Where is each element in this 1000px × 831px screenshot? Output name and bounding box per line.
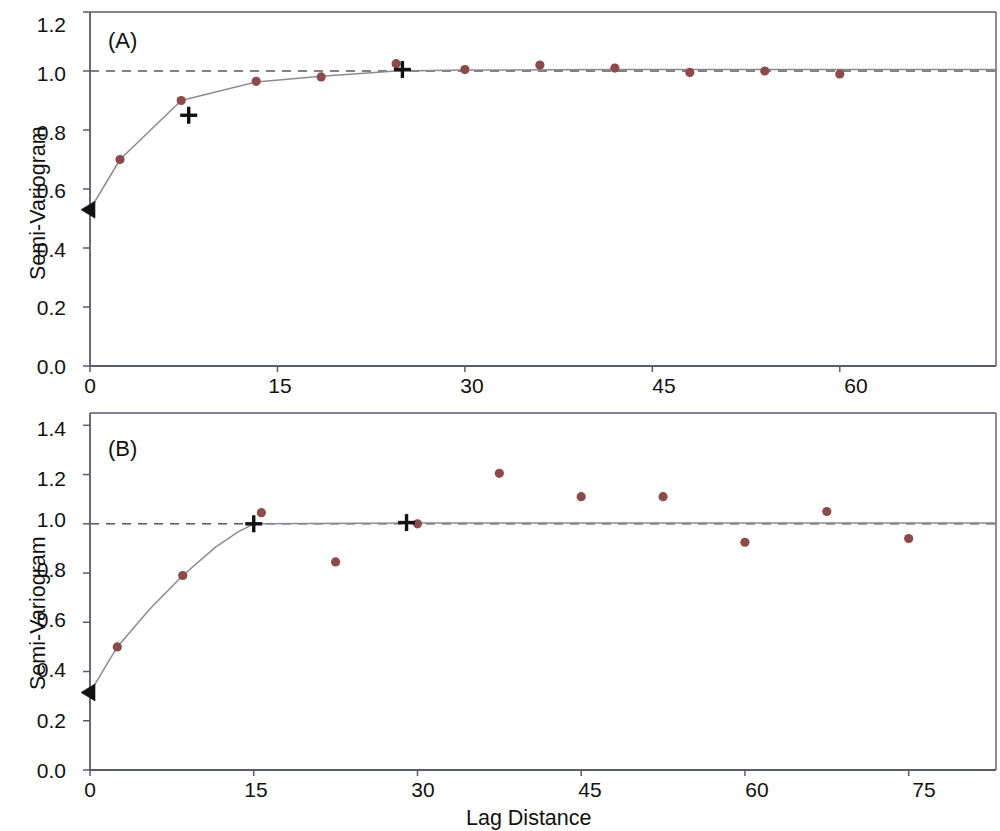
- panel-a-y-axis-title: Semi-Variogram: [26, 126, 51, 280]
- nugget-triangle-marker: [81, 201, 95, 218]
- data-point: [115, 155, 124, 164]
- data-point: [610, 63, 619, 72]
- shared-x-axis-title: Lag Distance: [466, 806, 592, 831]
- data-point: [257, 508, 266, 517]
- fitted-model-curve: [90, 523, 996, 692]
- panel-b-xtick-45: 45: [560, 779, 620, 800]
- panel-a-xtick-30: 30: [442, 375, 502, 396]
- panel-b-plot: [0, 400, 1000, 831]
- panel-a-plot: [0, 0, 1000, 400]
- panel-b-xtick-30: 30: [393, 779, 453, 800]
- panel-b-ytick-0.0: 0.0: [8, 760, 66, 781]
- panel-a-xtick-45: 45: [634, 375, 694, 396]
- data-point: [495, 469, 504, 478]
- panel-b-xtick-75: 75: [894, 779, 954, 800]
- cross-marker: [398, 514, 415, 531]
- panel-a-xtick-15: 15: [250, 375, 310, 396]
- panel-a-xtick-60: 60: [826, 375, 886, 396]
- panel-b-ytick-1.2: 1.2: [8, 468, 66, 489]
- data-point: [904, 534, 913, 543]
- panel-a-ytick-0.2: 0.2: [8, 297, 66, 318]
- panel-b-label: (B): [108, 436, 137, 462]
- nugget-triangle-marker: [81, 684, 95, 701]
- data-point: [113, 642, 122, 651]
- data-point: [835, 69, 844, 78]
- cross-marker: [180, 107, 197, 124]
- cross-marker: [245, 515, 262, 532]
- data-point: [658, 492, 667, 501]
- data-point: [760, 66, 769, 75]
- data-point: [177, 96, 186, 105]
- panel-b: 1.4 1.2 1.0 0.8 0.6 0.4 0.2 0.0 0 15 30 …: [0, 400, 1000, 831]
- panel-a-ytick-1.0: 1.0: [8, 63, 66, 84]
- data-point: [535, 61, 544, 70]
- data-point: [331, 557, 340, 566]
- data-point: [685, 68, 694, 77]
- panel-b-y-axis-title: Semi-Variogram: [26, 536, 51, 690]
- fitted-model-curve: [90, 70, 996, 210]
- panel-b-ytick-1.0: 1.0: [8, 509, 66, 530]
- data-point: [740, 538, 749, 547]
- panel-a-xtick-0: 0: [60, 375, 120, 396]
- data-point: [577, 492, 586, 501]
- panel-b-ytick-1.4: 1.4: [8, 418, 66, 439]
- data-point: [822, 507, 831, 516]
- figure-root: 1.2 1.0 0.8 0.6 0.4 0.2 0.0 0 15 30 45 6…: [0, 0, 1000, 831]
- panel-a-ytick-0.0: 0.0: [8, 356, 66, 377]
- panel-b-xtick-60: 60: [727, 779, 787, 800]
- panel-a: 1.2 1.0 0.8 0.6 0.4 0.2 0.0 0 15 30 45 6…: [0, 0, 1000, 400]
- panel-b-ytick-0.2: 0.2: [8, 710, 66, 731]
- panel-a-label: (A): [108, 28, 137, 54]
- panel-a-ytick-1.2: 1.2: [8, 14, 66, 35]
- data-point: [317, 72, 326, 81]
- panel-b-xtick-15: 15: [226, 779, 286, 800]
- data-point: [178, 571, 187, 580]
- data-point: [460, 65, 469, 74]
- panel-b-xtick-0: 0: [60, 779, 120, 800]
- data-point: [252, 77, 261, 86]
- data-point: [392, 59, 401, 68]
